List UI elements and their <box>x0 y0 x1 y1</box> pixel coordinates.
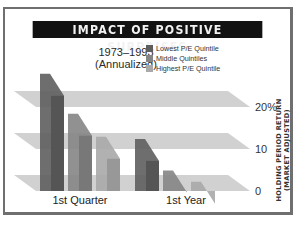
chart-plot: 01020% 1st Quarter1st Year <box>0 0 298 228</box>
bar <box>40 74 64 191</box>
bar-front <box>146 161 159 191</box>
y-axis-label-line2: (MARKET ADJUSTED) <box>283 98 291 201</box>
y-tick-label: 0 <box>255 185 261 197</box>
bar-front <box>107 159 120 191</box>
y-tick-labels: 01020% <box>255 101 277 197</box>
bar <box>68 114 92 191</box>
y-axis-label-line1: HOLDING PERIOD RETURN <box>275 98 283 201</box>
y-axis-label: HOLDING PERIOD RETURN (MARKET ADJUSTED) <box>275 98 291 201</box>
y-tick-label: 10 <box>255 143 267 155</box>
bar-front <box>79 136 92 191</box>
bar-front <box>51 96 64 191</box>
y-tick-label: 20% <box>255 101 277 113</box>
x-tick-labels: 1st Quarter1st Year <box>52 194 206 206</box>
x-tick-label: 1st Quarter <box>52 194 107 206</box>
x-tick-label: 1st Year <box>166 194 206 206</box>
